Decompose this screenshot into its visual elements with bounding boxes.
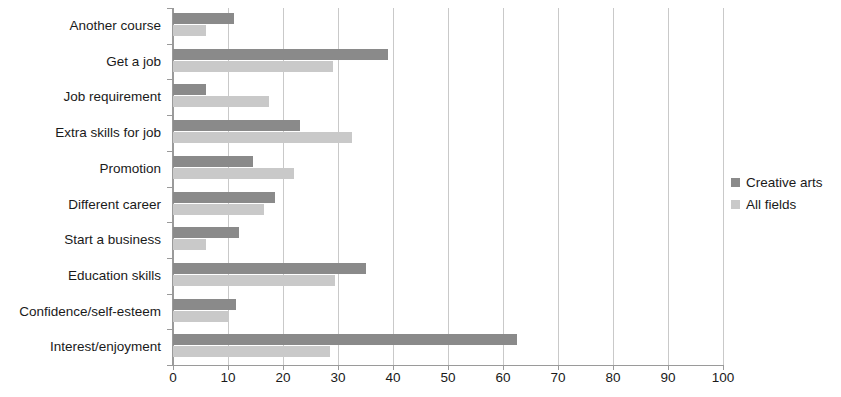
x-axis-tick	[558, 365, 559, 370]
bar-0	[173, 156, 253, 167]
bar-0	[173, 227, 239, 238]
legend-item: Creative arts	[731, 172, 841, 192]
bar-group	[173, 8, 723, 44]
bar-group	[173, 329, 723, 365]
y-axis-tick-label: Another course	[69, 8, 161, 44]
bar-1	[173, 61, 333, 72]
bar-0	[173, 263, 366, 274]
x-axis-tick	[228, 365, 229, 370]
bar-0	[173, 49, 388, 60]
y-axis-tick	[167, 187, 173, 188]
bar-1	[173, 346, 330, 357]
x-axis-tick-label: 70	[550, 370, 565, 385]
bar-group	[173, 294, 723, 330]
x-axis-tick-label: 100	[712, 370, 735, 385]
bar-chart: Another courseGet a jobJob requirementEx…	[0, 0, 841, 397]
bar-1	[173, 168, 294, 179]
x-axis-tick-label: 10	[220, 370, 235, 385]
bar-0	[173, 299, 236, 310]
x-axis-tick-label: 90	[660, 370, 675, 385]
bar-group	[173, 79, 723, 115]
y-axis-tick	[167, 115, 173, 116]
bar-0	[173, 192, 275, 203]
y-axis-tick	[167, 151, 173, 152]
x-axis-tick-label: 50	[440, 370, 455, 385]
y-axis-tick-label: Extra skills for job	[55, 115, 161, 151]
x-axis-tick	[393, 365, 394, 370]
bar-1	[173, 311, 228, 322]
legend-item: All fields	[731, 194, 841, 214]
y-axis-labels: Another courseGet a jobJob requirementEx…	[0, 8, 167, 365]
x-axis-tick	[173, 365, 174, 370]
bar-1	[173, 25, 206, 36]
x-axis-tick	[448, 365, 449, 370]
y-axis-tick-label: Get a job	[106, 44, 161, 80]
bar-group	[173, 44, 723, 80]
plot-area	[173, 8, 723, 365]
bar-1	[173, 239, 206, 250]
bar-1	[173, 96, 269, 107]
y-axis-tick-label: Start a business	[64, 222, 161, 258]
legend-label: All fields	[746, 197, 796, 212]
bar-group	[173, 151, 723, 187]
legend-swatch-icon	[731, 200, 740, 209]
y-axis-tick-label: Interest/enjoyment	[50, 329, 161, 365]
legend: Creative artsAll fields	[731, 172, 841, 216]
bar-group	[173, 187, 723, 223]
bar-group	[173, 258, 723, 294]
bar-0	[173, 120, 300, 131]
bar-0	[173, 334, 517, 345]
y-axis-tick	[167, 44, 173, 45]
x-axis-labels: 0102030405060708090100	[0, 370, 841, 394]
y-axis-tick-label: Education skills	[68, 258, 161, 294]
y-axis-tick-label: Job requirement	[63, 79, 161, 115]
y-axis-tick	[167, 329, 173, 330]
y-axis-tick-label: Different career	[68, 187, 161, 223]
x-axis-tick-label: 60	[495, 370, 510, 385]
y-axis-tick	[167, 79, 173, 80]
y-axis-tick	[167, 258, 173, 259]
x-axis-tick	[283, 365, 284, 370]
x-axis-tick	[723, 365, 724, 370]
bar-group	[173, 222, 723, 258]
bar-0	[173, 84, 206, 95]
y-axis-tick-label: Promotion	[99, 151, 161, 187]
y-axis-tick	[167, 294, 173, 295]
y-axis-tick	[167, 222, 173, 223]
x-axis-tick	[503, 365, 504, 370]
x-axis-tick	[613, 365, 614, 370]
bar-0	[173, 13, 234, 24]
legend-swatch-icon	[731, 178, 740, 187]
x-axis-tick	[338, 365, 339, 370]
y-axis-tick-label: Confidence/self-esteem	[19, 294, 161, 330]
x-axis-tick-label: 20	[275, 370, 290, 385]
x-axis-tick-label: 80	[605, 370, 620, 385]
x-axis-tick-label: 30	[330, 370, 345, 385]
x-axis-tick	[668, 365, 669, 370]
bar-group	[173, 115, 723, 151]
x-axis-tick-label: 40	[385, 370, 400, 385]
bar-1	[173, 275, 335, 286]
x-axis-tick-label: 0	[169, 370, 177, 385]
bar-1	[173, 204, 264, 215]
gridline-100	[723, 8, 724, 365]
y-axis-tick	[167, 8, 173, 9]
legend-label: Creative arts	[746, 175, 823, 190]
bar-1	[173, 132, 352, 143]
